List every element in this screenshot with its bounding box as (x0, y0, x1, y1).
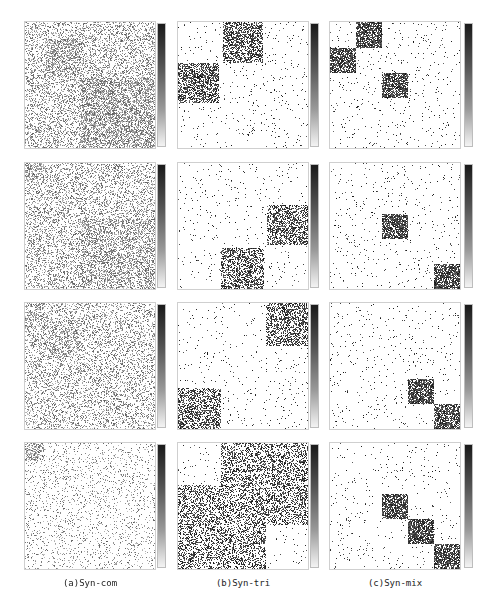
heatmap-plot (25, 22, 155, 148)
heatmap-plot (330, 443, 460, 569)
caption-syn-com: (a)Syn-com (15, 578, 165, 588)
heatmap-plot (330, 303, 460, 429)
colorbar (158, 165, 165, 287)
colorbar (311, 24, 318, 146)
colorbar (311, 165, 318, 287)
heatmap-plot (25, 443, 155, 569)
heatmap-plot (178, 303, 308, 429)
heatmap-plot (25, 303, 155, 429)
heatmap-plot (178, 22, 308, 148)
colorbar (465, 165, 472, 287)
caption-syn-mix: (c)Syn-mix (320, 578, 470, 588)
heatmap-plot (330, 163, 460, 289)
caption-syn-tri: (b)Syn-tri (168, 578, 318, 588)
colorbar (465, 24, 472, 146)
colorbar (158, 24, 165, 146)
heatmap-plot (330, 22, 460, 148)
heatmap-plot (25, 163, 155, 289)
colorbar (158, 445, 165, 567)
heatmap-plot (178, 443, 308, 569)
colorbar (311, 305, 318, 427)
colorbar (311, 445, 318, 567)
colorbar (465, 445, 472, 567)
heatmap-plot (178, 163, 308, 289)
colorbar (465, 305, 472, 427)
colorbar (158, 305, 165, 427)
